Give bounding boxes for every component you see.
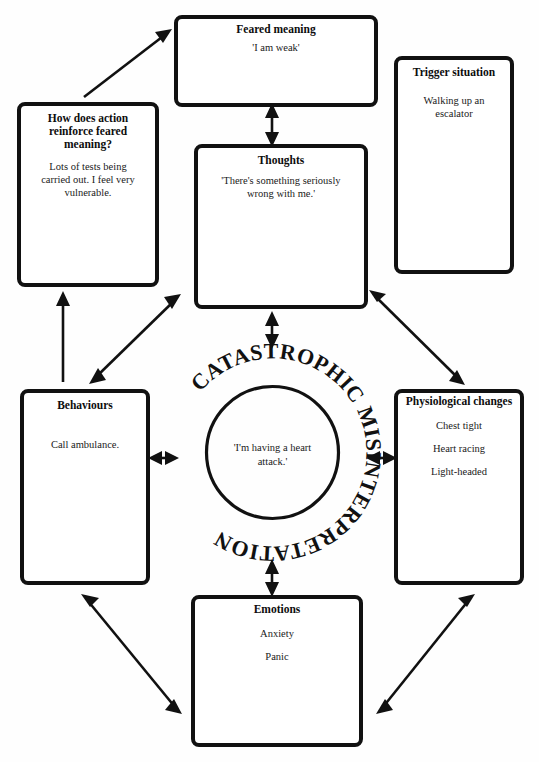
- physiological-line-1: Chest tight: [436, 420, 482, 431]
- thoughts-line-2: wrong with me.': [247, 188, 315, 199]
- arrow-behaviours-emotions-diagonal: [81, 594, 182, 714]
- feared-meaning-line-1: 'I am weak': [252, 42, 300, 53]
- box-thoughts[interactable]: Thoughts 'There's something seriously wr…: [196, 146, 366, 307]
- behaviours-line-1: Call ambulance.: [51, 439, 119, 450]
- thoughts-line-1: 'There's something seriously: [221, 175, 341, 186]
- emotions-frame[interactable]: [193, 597, 361, 745]
- reinforce-line-3: vulnerable.: [65, 187, 112, 198]
- physiological-line-3: Light-headed: [431, 466, 488, 477]
- panic-cycle-diagram: CATASTROPHIC MISINTERPRETATION 'I'm havi…: [0, 0, 539, 762]
- box-trigger-situation[interactable]: Trigger situation Walking up an escalato…: [396, 58, 512, 272]
- trigger-situation-line-1: Walking up an: [424, 95, 486, 106]
- reinforce-line-2: carried out. I feel very: [41, 174, 135, 185]
- arrow-emotions-physiological-diagonal: [376, 594, 475, 714]
- physiological-line-2: Heart racing: [433, 443, 486, 454]
- box-emotions[interactable]: Emotions Anxiety Panic: [193, 597, 361, 745]
- thoughts-title: Thoughts: [258, 154, 305, 167]
- arrow-behaviours-to-reinforce: [56, 291, 70, 382]
- arrow-thoughts-behaviours-diagonal: [89, 294, 181, 384]
- feared-meaning-title: Feared meaning: [236, 23, 316, 36]
- centre-text-line-1: 'I'm having a heart: [234, 442, 312, 453]
- box-physiological-changes[interactable]: Physiological changes Chest tight Heart …: [396, 391, 522, 583]
- thoughts-frame[interactable]: [196, 146, 366, 307]
- centre-text-line-2: attack.': [258, 456, 288, 467]
- emotions-line-1: Anxiety: [260, 628, 295, 639]
- reinforce-line-1: Lots of tests being: [49, 161, 127, 172]
- trigger-situation-frame[interactable]: [396, 58, 512, 272]
- box-behaviours[interactable]: Behaviours Call ambulance.: [22, 391, 148, 583]
- centre-circle-group: CATASTROPHIC MISINTERPRETATION 'I'm havi…: [186, 338, 387, 566]
- reinforce-title-line-1: How does action: [48, 112, 129, 124]
- behaviours-title: Behaviours: [57, 399, 113, 411]
- arrow-reinforce-to-feared: [84, 29, 172, 97]
- physiological-changes-title: Physiological changes: [406, 395, 513, 408]
- diagram-canvas: CATASTROPHIC MISINTERPRETATION 'I'm havi…: [0, 0, 539, 762]
- box-reinforce-feared-meaning[interactable]: How does action reinforce feared meaning…: [19, 104, 157, 285]
- behaviours-frame[interactable]: [22, 391, 148, 583]
- arrow-thoughts-physiological-diagonal: [369, 290, 465, 385]
- emotions-title: Emotions: [254, 603, 301, 615]
- emotions-line-2: Panic: [265, 651, 289, 662]
- box-feared-meaning[interactable]: Feared meaning 'I am weak': [176, 17, 376, 105]
- trigger-situation-title: Trigger situation: [413, 66, 496, 79]
- trigger-situation-line-2: escalator: [435, 108, 473, 119]
- reinforce-title-line-3: meaning?: [64, 138, 112, 151]
- reinforce-title-line-2: reinforce feared: [49, 125, 128, 137]
- arrow-behaviours-centre: [148, 451, 179, 465]
- arrow-feared-thoughts: [265, 103, 279, 147]
